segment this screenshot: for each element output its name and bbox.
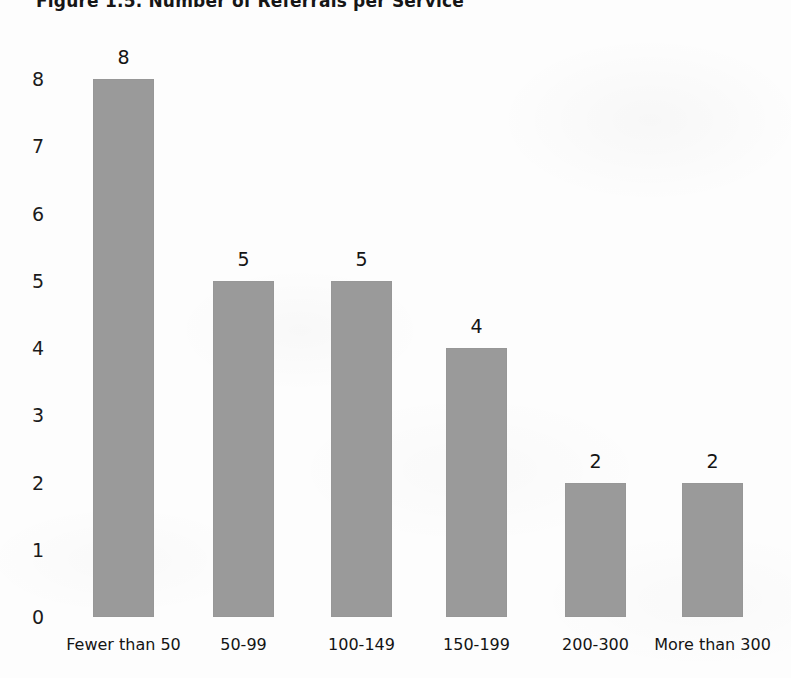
x-axis-tick-label: More than 300 (654, 635, 771, 654)
y-axis-tick-label: 1 (10, 539, 44, 561)
y-axis-tick-label: 2 (10, 472, 44, 494)
y-axis-tick-label: 6 (10, 203, 44, 225)
bar (93, 79, 154, 617)
bar (565, 483, 626, 618)
bar-value-label: 2 (589, 450, 601, 472)
bar-value-label: 5 (237, 248, 249, 270)
bar (446, 348, 507, 617)
bar-value-label: 8 (117, 46, 129, 68)
y-axis-tick-label: 7 (10, 135, 44, 157)
y-axis-tick-label: 8 (10, 68, 44, 90)
x-axis-tick-label: 50-99 (220, 635, 267, 654)
bar-value-label: 2 (706, 450, 718, 472)
y-axis-tick-label: 3 (10, 404, 44, 426)
y-axis-tick-label: 5 (10, 270, 44, 292)
bar (331, 281, 392, 617)
x-axis-tick-label: Fewer than 50 (66, 635, 181, 654)
x-axis-tick-label: 150-199 (443, 635, 510, 654)
bar (213, 281, 274, 617)
y-axis-tick-label: 4 (10, 337, 44, 359)
bar-value-label: 4 (470, 315, 482, 337)
x-axis-tick-label: 100-149 (328, 635, 395, 654)
bar-value-label: 5 (355, 248, 367, 270)
bar-chart-plot-area: 012345678 855422 Fewer than 5050-99100-1… (0, 0, 791, 678)
bar (682, 483, 743, 618)
x-axis-tick-label: 200-300 (562, 635, 629, 654)
figure-container: Figure 1.5. Number of Referrals per Serv… (0, 0, 791, 678)
y-axis-tick-label: 0 (10, 606, 44, 628)
